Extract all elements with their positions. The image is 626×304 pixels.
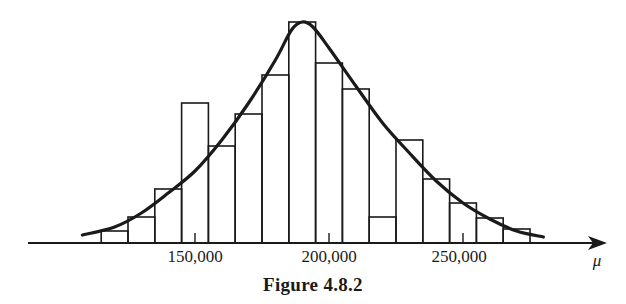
histogram-bar <box>128 217 155 243</box>
tick-label-150000: 150,000 <box>167 247 222 266</box>
histogram-bar <box>155 189 182 243</box>
histogram-bar <box>289 22 316 243</box>
histogram-bar <box>369 217 396 243</box>
histogram-bars <box>101 22 530 243</box>
tick-label-200000: 200,000 <box>301 247 356 266</box>
histogram-bar <box>316 63 343 243</box>
histogram-bar <box>101 231 128 243</box>
histogram-chart: 150,000 200,000 250,000 μ <box>0 0 626 304</box>
axis-variable-label: μ <box>592 251 602 270</box>
density-curve <box>82 22 543 237</box>
histogram-bar <box>476 218 503 243</box>
histogram-bar <box>342 89 369 243</box>
histogram-bar <box>208 146 235 243</box>
histogram-bar <box>396 140 423 243</box>
histogram-bar <box>262 75 289 243</box>
tick-label-250000: 250,000 <box>431 247 486 266</box>
figure-caption: Figure 4.8.2 <box>0 274 626 296</box>
histogram-bar <box>235 114 262 243</box>
